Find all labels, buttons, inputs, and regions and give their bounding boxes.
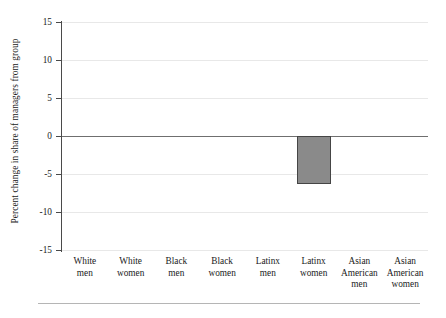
x-axis-label-line: men bbox=[154, 268, 200, 280]
y-axis-tick bbox=[56, 174, 61, 175]
y-axis-tick-label: -15 bbox=[24, 246, 52, 255]
y-axis-tick bbox=[56, 22, 61, 23]
x-axis-label-black-women: Blackwomen bbox=[199, 256, 245, 296]
bar-latinx-women[interactable] bbox=[297, 136, 331, 184]
y-axis-tick bbox=[56, 212, 61, 213]
x-axis-category-labels: WhitemenWhitewomenBlackmenBlackwomenLati… bbox=[62, 256, 428, 296]
x-axis-label-line: American bbox=[337, 268, 383, 280]
x-axis-label-latinx-women: Latinxwomen bbox=[291, 256, 337, 296]
zero-line bbox=[62, 136, 428, 137]
x-axis-label-line: Latinx bbox=[256, 256, 280, 266]
gridline bbox=[62, 212, 428, 213]
x-axis-label-line: men bbox=[337, 279, 383, 291]
y-axis-tick-label: -10 bbox=[24, 208, 52, 217]
x-axis-label-line: women bbox=[199, 268, 245, 280]
x-axis-label-line: men bbox=[245, 268, 291, 280]
y-axis-tick bbox=[56, 60, 61, 61]
x-axis-label-white-women: Whitewomen bbox=[108, 256, 154, 296]
x-axis-label-line: White bbox=[74, 256, 97, 266]
gridline bbox=[62, 250, 428, 251]
y-axis-tick-label: 5 bbox=[24, 94, 52, 103]
gridline bbox=[62, 174, 428, 175]
x-axis-label-line: women bbox=[382, 279, 428, 291]
y-axis-tick bbox=[56, 250, 61, 251]
x-axis-label-white-men: Whitemen bbox=[62, 256, 108, 296]
x-axis-label-line: Black bbox=[166, 256, 188, 266]
y-axis-tick bbox=[56, 98, 61, 99]
y-axis-tick-label: 0 bbox=[24, 132, 52, 141]
figure-container: Percent change in share of managers from… bbox=[0, 0, 446, 318]
y-axis-tick-label: 15 bbox=[24, 18, 52, 27]
gridline bbox=[62, 98, 428, 99]
x-axis-label-asian-american-men: AsianAmericanmen bbox=[337, 256, 383, 296]
gridline bbox=[62, 60, 428, 61]
x-axis-label-line: women bbox=[108, 268, 154, 280]
x-axis-label-line: Black bbox=[211, 256, 233, 266]
x-axis-label-line: Asian bbox=[349, 256, 371, 266]
y-axis-tick-label: -5 bbox=[24, 170, 52, 179]
figure-footer-rule bbox=[38, 303, 420, 304]
x-axis-label-line: women bbox=[291, 268, 337, 280]
x-axis-label-line: Asian bbox=[394, 256, 416, 266]
plot-area bbox=[62, 22, 428, 250]
x-axis-label-line: American bbox=[382, 268, 428, 280]
y-axis-tick bbox=[56, 136, 61, 137]
x-axis-label-black-men: Blackmen bbox=[154, 256, 200, 296]
x-axis-label-line: Latinx bbox=[301, 256, 325, 266]
gridline bbox=[62, 22, 428, 23]
y-axis-title-text: Percent change in share of managers from… bbox=[10, 38, 20, 223]
x-axis-label-latinx-men: Latinxmen bbox=[245, 256, 291, 296]
x-axis-label-asian-american-women: AsianAmericanwomen bbox=[382, 256, 428, 296]
y-axis-tick-label: 10 bbox=[24, 56, 52, 65]
x-axis-label-line: White bbox=[119, 256, 142, 266]
x-axis-label-line: men bbox=[62, 268, 108, 280]
